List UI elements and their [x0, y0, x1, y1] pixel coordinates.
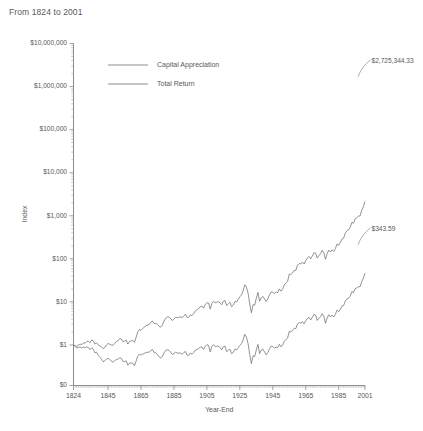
- x-axis-tick-label: 1824: [66, 392, 81, 399]
- line-chart: $10,000,000$1,000,000$100,000$10,000$1,0…: [0, 0, 423, 431]
- y-axis-tick-label: $1,000,000: [34, 82, 67, 89]
- legend-label-2: Total Return: [157, 80, 195, 87]
- x-axis-title: Year-End: [205, 406, 233, 413]
- legend-label-1: Capital Appreciation: [157, 61, 219, 69]
- y-axis-tick-label: $0: [60, 381, 68, 388]
- annotation-label-capital-appreciation-endpoint: $2,725,344.33: [372, 57, 415, 64]
- y-axis-tick-label: $100,000: [39, 125, 67, 132]
- y-axis-tick-label: $10: [56, 298, 67, 305]
- annotation-leader-1: [358, 60, 371, 77]
- y-axis-tick-label: $10,000: [43, 168, 67, 175]
- x-axis-tick-label: 1985: [331, 392, 346, 399]
- y-axis-tick-label: $10,000,000: [30, 39, 67, 46]
- chart-container: $10,000,000$1,000,000$100,000$10,000$1,0…: [0, 0, 423, 431]
- x-axis-tick-label: 1845: [101, 392, 116, 399]
- y-axis-tick-label: $1: [60, 341, 68, 348]
- x-axis-tick-label: 1865: [133, 392, 148, 399]
- y-axis-tick-label: $1,000: [47, 212, 68, 219]
- annotation-leader-2: [358, 228, 371, 245]
- series-line-capital-appreciation: [74, 201, 366, 348]
- x-axis-tick-label: 1925: [232, 392, 247, 399]
- y-axis-tick-label: $100: [52, 255, 67, 262]
- x-axis-tick-label: 1905: [199, 392, 214, 399]
- annotation-label-total-return-endpoint: $343.59: [372, 225, 396, 232]
- x-axis-tick-label: 1965: [298, 392, 313, 399]
- x-axis-tick-label: 1945: [265, 392, 280, 399]
- x-axis-tick-label: 2001: [357, 392, 372, 399]
- x-axis-tick-label: 1885: [166, 392, 181, 399]
- series-line-total-return: [74, 273, 366, 366]
- y-axis-title: Index: [21, 205, 28, 222]
